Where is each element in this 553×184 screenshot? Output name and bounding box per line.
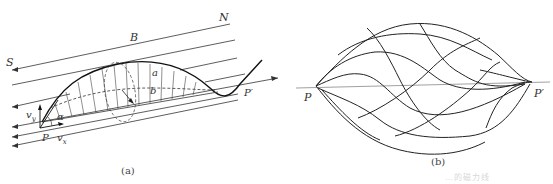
panel-b-drawing bbox=[280, 0, 553, 184]
gyration-ellipse bbox=[100, 60, 140, 124]
field-line-mesh bbox=[316, 23, 532, 154]
label-a: a bbox=[152, 68, 158, 78]
label-vy: vy bbox=[26, 110, 36, 123]
panel-a-helical-motion: N B S a b P′ α vy P vx (a) bbox=[0, 0, 280, 184]
label-field-b: B bbox=[130, 32, 138, 43]
label-vx: vx bbox=[57, 133, 67, 146]
caption-a: (a) bbox=[121, 166, 135, 176]
label-start-point-b: P bbox=[304, 92, 311, 103]
label-south: S bbox=[6, 57, 14, 68]
label-end-point-b: P′ bbox=[534, 88, 544, 99]
hatching bbox=[55, 63, 196, 119]
panel-b-field-line-mesh: P P′ (b) bbox=[280, 0, 553, 184]
caption-b: (b) bbox=[431, 157, 445, 167]
label-end-point: P′ bbox=[244, 88, 253, 98]
label-b: b bbox=[150, 86, 156, 96]
faint-footer-text: …的磁力线 bbox=[445, 174, 490, 182]
field-lines bbox=[12, 24, 278, 146]
panel-a-drawing bbox=[0, 0, 280, 184]
label-start-point: P bbox=[42, 133, 49, 143]
label-alpha: α bbox=[57, 112, 64, 122]
label-north: N bbox=[219, 12, 229, 23]
